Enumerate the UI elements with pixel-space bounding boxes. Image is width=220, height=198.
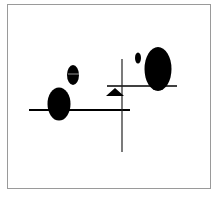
large-ellipse-right (145, 47, 172, 91)
small-ellipse-mid (67, 65, 79, 85)
large-ellipse-left (48, 88, 71, 121)
abstract-composition (0, 0, 220, 198)
triangle-shape (106, 88, 124, 96)
small-dot (135, 53, 141, 64)
